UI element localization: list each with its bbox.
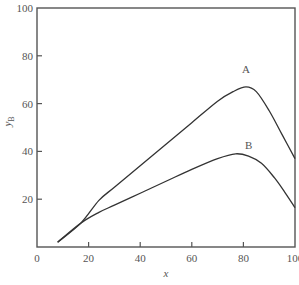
y-tick-label: 100	[17, 2, 34, 14]
curve-label-a: A	[242, 63, 250, 75]
y-tick-label: 20	[22, 193, 34, 205]
y-tick-label: 80	[22, 50, 34, 62]
curve-a	[58, 87, 295, 242]
x-axis-ticks: 020406080100	[34, 242, 299, 264]
x-tick-label: 100	[287, 252, 299, 264]
y-axis-label-subscript: B	[7, 116, 16, 121]
plot-frame	[37, 8, 295, 247]
x-tick-label: 40	[135, 252, 147, 264]
y-axis-label: yB	[1, 116, 16, 127]
curves: AB	[58, 63, 295, 243]
y-tick-label: 60	[22, 98, 34, 110]
line-chart: 020406080100 20406080100 AB x yB	[0, 0, 299, 285]
x-axis-label: x	[163, 267, 169, 279]
x-tick-label: 60	[186, 252, 198, 264]
y-tick-label: 40	[22, 145, 34, 157]
x-tick-label: 80	[238, 252, 250, 264]
x-tick-label: 0	[34, 252, 40, 264]
y-axis-ticks: 20406080100	[17, 2, 43, 205]
curve-label-b: B	[245, 139, 252, 151]
chart-container: 020406080100 20406080100 AB x yB	[0, 0, 299, 285]
x-tick-label: 20	[83, 252, 95, 264]
curve-b	[58, 154, 295, 243]
